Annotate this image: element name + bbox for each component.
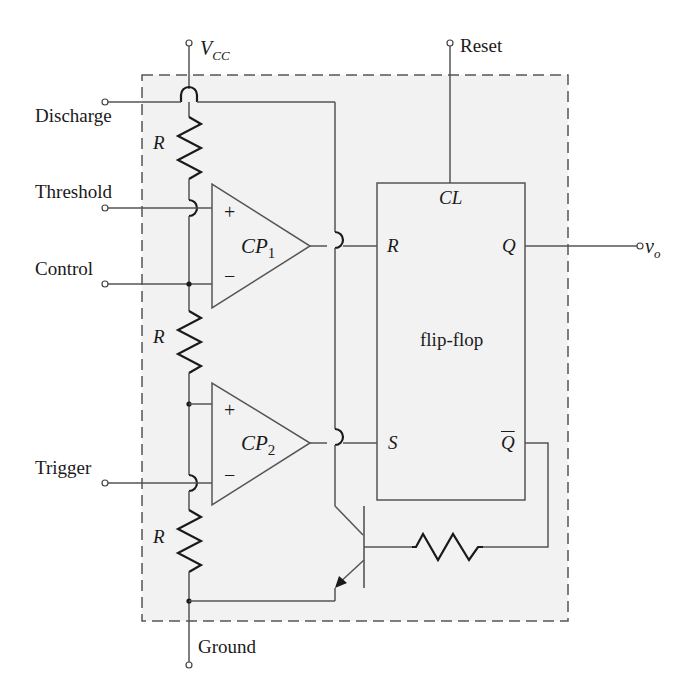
vcc-subscript: CC	[212, 48, 229, 63]
cp2-minus-sign: −	[224, 465, 235, 485]
cp2-label: CP2	[241, 433, 275, 454]
output-terminal	[637, 243, 643, 249]
vcc-terminal	[186, 40, 192, 46]
threshold-label: Threshold	[35, 182, 112, 201]
threshold-terminal	[102, 205, 108, 211]
ground-terminal	[186, 662, 192, 668]
ic-package-boundary	[142, 75, 568, 621]
output-symbol: v	[645, 235, 654, 257]
flipflop-title: flip-flop	[420, 330, 483, 349]
ground-label: Ground	[198, 637, 256, 656]
flipflop-q-label: Q	[502, 236, 516, 255]
junction-control	[186, 281, 191, 286]
resistor-r2-label: R	[153, 327, 165, 346]
circuit-schematic	[0, 0, 693, 693]
cp2-index: 2	[268, 442, 276, 458]
flipflop-s-input-label: S	[388, 433, 398, 452]
cp2-name: CP	[241, 431, 268, 455]
cp2-plus-sign: +	[224, 400, 235, 420]
control-terminal	[102, 281, 108, 287]
vcc-symbol: V	[200, 37, 212, 59]
cp1-name: CP	[241, 234, 268, 258]
cp1-label: CP1	[241, 236, 275, 257]
cp1-minus-sign: −	[224, 266, 235, 286]
discharge-label: Discharge	[35, 106, 112, 125]
flipflop-r-input-label: R	[387, 236, 399, 255]
cp1-plus-sign: +	[224, 202, 235, 222]
trigger-terminal	[102, 480, 108, 486]
reset-label: Reset	[460, 36, 502, 55]
output-label: vo	[645, 236, 660, 256]
flipflop-clear-label: CL	[439, 188, 462, 207]
trigger-label: Trigger	[35, 458, 91, 477]
output-subscript: o	[654, 246, 661, 261]
flipflop-qbar-label: Q	[501, 433, 515, 452]
vcc-label: VCC	[200, 38, 230, 58]
resistor-r1-label: R	[153, 133, 165, 152]
resistor-r3-label: R	[153, 527, 165, 546]
cp1-index: 1	[268, 245, 276, 261]
reset-terminal	[447, 40, 453, 46]
control-label: Control	[35, 259, 93, 278]
